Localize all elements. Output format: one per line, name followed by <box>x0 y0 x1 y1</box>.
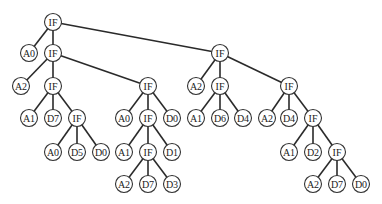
tree-node-if: IF <box>140 144 157 161</box>
node-label: D1 <box>166 147 178 158</box>
node-label: D7 <box>47 113 59 124</box>
node-label: D5 <box>71 147 83 158</box>
node-label: D6 <box>214 113 226 124</box>
tree-node-data-terminal: D2 <box>305 144 322 161</box>
tree-node-if: IF <box>329 144 346 161</box>
node-label: IF <box>73 113 82 124</box>
node-label: D4 <box>283 113 295 124</box>
node-label: A2 <box>307 179 319 190</box>
tree-node-data-terminal: D6 <box>212 110 229 127</box>
tree-edge <box>53 53 148 86</box>
node-label: IF <box>49 48 58 59</box>
tree-node-if: IF <box>305 110 322 127</box>
node-label: IF <box>309 113 318 124</box>
node-label: A2 <box>15 81 27 92</box>
tree-node-data-terminal: D5 <box>69 144 86 161</box>
tree-node-data-terminal: D7 <box>45 110 62 127</box>
node-label: A0 <box>118 113 130 124</box>
tree-node-data-terminal: D7 <box>329 176 346 193</box>
tree-node-data-terminal: D0 <box>164 110 181 127</box>
tree-edge <box>53 22 220 53</box>
node-label: D2 <box>307 147 319 158</box>
tree-node-address-terminal: A1 <box>116 144 133 161</box>
node-label: A1 <box>118 147 130 158</box>
tree-node-if: IF <box>45 45 62 62</box>
node-label: IF <box>333 147 342 158</box>
tree-node-address-terminal: A0 <box>21 45 38 62</box>
tree-node-address-terminal: A1 <box>281 144 298 161</box>
node-label: IF <box>49 17 58 28</box>
tree-node-data-terminal: D4 <box>281 110 298 127</box>
node-label: A0 <box>23 48 35 59</box>
tree-node-if: IF <box>212 45 229 62</box>
tree-node-if: IF <box>140 78 157 95</box>
node-label: IF <box>144 81 153 92</box>
node-label: D3 <box>166 179 178 190</box>
node-label: IF <box>49 81 58 92</box>
node-label: D4 <box>237 113 249 124</box>
node-label: A1 <box>283 147 295 158</box>
tree-node-data-terminal: D0 <box>353 176 370 193</box>
node-label: A0 <box>47 147 59 158</box>
tree-node-address-terminal: A0 <box>45 144 62 161</box>
tree-node-data-terminal: D4 <box>235 110 252 127</box>
tree-edge <box>220 53 289 86</box>
node-label: IF <box>216 48 225 59</box>
node-label: A1 <box>23 113 35 124</box>
tree-node-address-terminal: A2 <box>116 176 133 193</box>
node-label: D0 <box>95 147 107 158</box>
node-label: IF <box>285 81 294 92</box>
tree-node-address-terminal: A2 <box>305 176 322 193</box>
tree-node-address-terminal: A1 <box>188 110 205 127</box>
node-label: IF <box>144 147 153 158</box>
tree-node-address-terminal: A2 <box>259 110 276 127</box>
tree-node-if: IF <box>45 78 62 95</box>
node-label: D0 <box>166 113 178 124</box>
tree-node-if: IF <box>45 14 62 31</box>
tree-node-data-terminal: D0 <box>93 144 110 161</box>
tree-node-address-terminal: A0 <box>116 110 133 127</box>
tree-node-data-terminal: D1 <box>164 144 181 161</box>
tree-node-address-terminal: A2 <box>188 78 205 95</box>
node-label: D7 <box>142 179 154 190</box>
tree-node-if: IF <box>281 78 298 95</box>
tree-node-if: IF <box>140 110 157 127</box>
tree-node-address-terminal: A2 <box>13 78 30 95</box>
node-label: A2 <box>118 179 130 190</box>
node-label: IF <box>144 113 153 124</box>
node-label: D7 <box>331 179 343 190</box>
node-label: D0 <box>355 179 367 190</box>
node-label: IF <box>216 81 225 92</box>
tree-node-address-terminal: A1 <box>21 110 38 127</box>
tree-node-if: IF <box>212 78 229 95</box>
node-label: A2 <box>261 113 273 124</box>
node-label: A1 <box>190 113 202 124</box>
node-label: A2 <box>190 81 202 92</box>
tree-node-data-terminal: D3 <box>164 176 181 193</box>
tree-node-if: IF <box>69 110 86 127</box>
tree-node-data-terminal: D7 <box>140 176 157 193</box>
program-tree-diagram: IFA0IFA2IFA1D7IFA0D5D0IFA0IFD0A1IFD1A2D7… <box>0 0 382 204</box>
